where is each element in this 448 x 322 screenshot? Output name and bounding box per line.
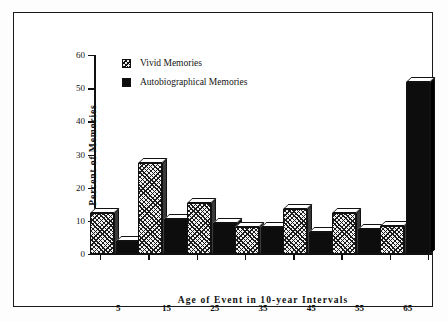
figure-canvas: Percent of Memories 0102030405060 515253… xyxy=(0,0,448,322)
bar-vivid-55 xyxy=(332,208,356,254)
bar-front-face xyxy=(332,213,356,254)
x-axis-title: Age of Event in 10-year Intervals xyxy=(94,295,432,305)
y-tick xyxy=(88,155,94,156)
bar-vivid-5 xyxy=(90,208,114,254)
bar-front-face xyxy=(116,241,140,254)
bar-vivid-65 xyxy=(380,221,404,254)
bar-autobiographical-5 xyxy=(116,236,140,254)
x-tick xyxy=(341,254,342,260)
legend-item-vivid: Vivid Memories xyxy=(122,58,247,68)
y-tick xyxy=(88,254,94,255)
bar-vivid-45 xyxy=(283,204,307,254)
legend-item-autobiographical: Autobiographical Memories xyxy=(122,77,247,87)
x-tick xyxy=(245,254,246,260)
bar-front-face xyxy=(309,232,333,254)
y-tick xyxy=(88,188,94,189)
bar-front-face xyxy=(138,163,162,254)
bar-front-face xyxy=(164,219,188,254)
bar-front-face xyxy=(283,209,307,254)
y-tick-label: 50 xyxy=(76,83,85,93)
bar-front-face xyxy=(235,227,259,254)
bar-front-face xyxy=(213,223,237,255)
bar-front-face xyxy=(261,227,285,254)
legend-label-vivid: Vivid Memories xyxy=(140,58,202,68)
bar-front-face xyxy=(187,203,211,254)
x-tick xyxy=(197,254,198,260)
bar-side-face xyxy=(430,77,435,254)
x-tick xyxy=(148,254,149,260)
bar-vivid-25 xyxy=(187,198,211,254)
y-tick-label: 20 xyxy=(76,183,85,193)
filled-square-icon xyxy=(122,78,131,87)
bar-autobiographical-55 xyxy=(358,224,382,254)
y-tick xyxy=(88,88,94,89)
figure-frame-border: Percent of Memories 0102030405060 515253… xyxy=(13,12,433,307)
bar-vivid-15 xyxy=(138,158,162,254)
y-tick xyxy=(88,121,94,122)
bar-autobiographical-15 xyxy=(164,214,188,254)
bar-top-face xyxy=(187,198,217,203)
x-tick xyxy=(390,254,391,260)
x-tick xyxy=(293,254,294,260)
bar-autobiographical-45 xyxy=(309,227,333,254)
bar-top-face xyxy=(406,77,436,82)
hatched-square-icon xyxy=(122,59,131,68)
bar-autobiographical-65 xyxy=(406,77,430,254)
bar-front-face xyxy=(358,229,382,254)
y-tick-label: 60 xyxy=(76,50,85,60)
y-tick-label: 40 xyxy=(76,116,85,126)
bar-front-face xyxy=(380,226,404,254)
legend-label-autobiographical: Autobiographical Memories xyxy=(140,77,247,87)
y-tick-label: 30 xyxy=(76,150,85,160)
bar-vivid-35 xyxy=(235,222,259,254)
bar-front-face xyxy=(90,213,114,254)
bar-top-face xyxy=(332,208,362,213)
y-tick xyxy=(88,55,94,56)
bar-front-face xyxy=(406,82,430,254)
chart-legend: Vivid Memories Autobiographical Memories xyxy=(122,58,247,96)
bar-autobiographical-25 xyxy=(213,218,237,255)
x-tick xyxy=(100,254,101,260)
bar-autobiographical-35 xyxy=(261,222,285,254)
y-tick-label: 0 xyxy=(81,249,86,259)
y-axis-title-holder: Percent of Memories xyxy=(54,55,74,254)
y-tick-label: 10 xyxy=(76,216,85,226)
bar-top-face xyxy=(90,208,120,213)
